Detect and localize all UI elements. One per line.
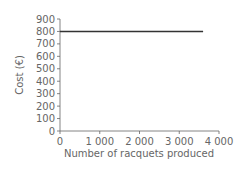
y-axis: 0100200300400500600700800900: [36, 14, 60, 137]
y-tick-label: 200: [36, 101, 55, 112]
y-tick-label: 400: [36, 76, 55, 87]
y-tick-label: 0: [49, 126, 55, 137]
chart: 0100200300400500600700800900 01 0002 000…: [0, 0, 243, 170]
y-tick-label: 600: [36, 51, 55, 62]
y-tick-label: 300: [36, 88, 55, 99]
y-tick-label: 900: [36, 14, 55, 25]
x-tick-label: 0: [57, 136, 63, 147]
x-tick-label: 1 000: [85, 136, 114, 147]
x-tick-label: 4 000: [205, 136, 234, 147]
y-tick-label: 100: [36, 113, 55, 124]
x-tick-label: 2 000: [125, 136, 154, 147]
y-tick-label: 800: [36, 26, 55, 37]
x-tick-label: 3 000: [165, 136, 194, 147]
x-axis-label: Number of racquets produced: [64, 148, 214, 159]
x-axis: 01 0002 0003 0004 000: [57, 131, 234, 147]
y-tick-label: 700: [36, 38, 55, 49]
y-tick-label: 500: [36, 63, 55, 74]
y-axis-label: Cost (€): [14, 55, 25, 95]
